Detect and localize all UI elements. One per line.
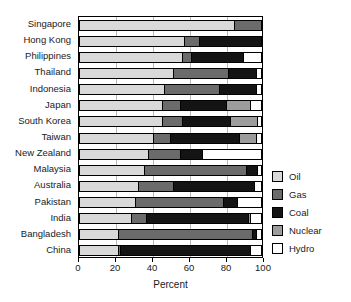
bar-row: [79, 229, 262, 240]
bar-segment-oil: [79, 165, 145, 176]
bar-segment-nuclear: [240, 133, 256, 144]
y-axis-label-australia: Australia: [34, 180, 71, 190]
bar-row: [79, 245, 262, 256]
legend-label-coal: Coal: [289, 207, 309, 218]
bar-row: [79, 84, 262, 95]
bar-segment-oil: [79, 133, 154, 144]
bar-segment-oil: [79, 197, 136, 208]
legend-swatch-nuclear-icon: [272, 225, 283, 236]
y-axis-label-philippines: Philippines: [25, 51, 71, 61]
bar-segment-hydro: [257, 229, 263, 240]
legend-label-oil: Oil: [289, 171, 301, 182]
y-axis-category-labels: SingaporeHong KongPhilippinesThailandInd…: [0, 16, 75, 258]
bar-segment-oil: [79, 213, 132, 224]
legend-item-oil[interactable]: Oil: [272, 168, 348, 184]
y-axis-label-bangladesh: Bangladesh: [21, 229, 71, 239]
bar-segment-gas: [163, 116, 183, 127]
legend-label-nuclear: Nuclear: [289, 225, 322, 236]
bar-segment-oil: [79, 245, 119, 256]
bar-segment-hydro: [258, 116, 262, 127]
y-axis-label-south-korea: South Korea: [18, 116, 71, 126]
legend-item-hydro[interactable]: Hydro: [272, 240, 348, 256]
y-axis-label-taiwan: Taiwan: [41, 132, 71, 142]
bar-segment-coal: [229, 68, 256, 79]
bar-row: [79, 52, 262, 63]
bar-row: [79, 100, 262, 111]
y-axis-label-pakistan: Pakistan: [35, 197, 71, 207]
x-tick-label-80: 80: [221, 262, 232, 273]
bar-segment-nuclear: [227, 100, 251, 111]
bar-segment-coal: [200, 36, 262, 47]
bar-segment-hydro: [203, 149, 262, 160]
legend-item-gas[interactable]: Gas: [272, 186, 348, 202]
bar-row: [79, 197, 262, 208]
bar-segment-gas: [136, 197, 224, 208]
bar-segment-coal: [192, 52, 243, 63]
y-axis-label-singapore: Singapore: [28, 19, 71, 29]
stacked-bar-chart: SingaporeHong KongPhilippinesThailandInd…: [0, 0, 351, 302]
bar-segment-oil: [79, 181, 139, 192]
bar-row: [79, 68, 262, 79]
legend-item-nuclear[interactable]: Nuclear: [272, 222, 348, 238]
bar-segment-coal: [174, 181, 255, 192]
bar-row: [79, 213, 262, 224]
y-axis-label-india: India: [50, 213, 71, 223]
x-tick-label-0: 0: [75, 262, 80, 273]
bar-segment-hydro: [257, 84, 263, 95]
bar-segment-gas: [119, 229, 253, 240]
bar-segment-gas: [145, 165, 247, 176]
bar-segment-coal: [181, 100, 227, 111]
bar-segment-oil: [79, 100, 163, 111]
x-axis-title: Percent: [78, 279, 263, 290]
bar-segment-coal: [147, 213, 249, 224]
bar-segment-coal: [224, 197, 239, 208]
bar-segment-coal: [121, 245, 251, 256]
x-tick-label-40: 40: [147, 262, 158, 273]
bar-row: [79, 116, 262, 127]
bar-segment-oil: [79, 20, 235, 31]
bar-segment-hydro: [238, 197, 262, 208]
bar-segment-gas: [149, 149, 182, 160]
legend-swatch-gas-icon: [272, 189, 283, 200]
bar-segment-oil: [79, 68, 174, 79]
legend-swatch-coal-icon: [272, 207, 283, 218]
y-axis-label-hong-kong: Hong Kong: [23, 35, 71, 45]
bar-segment-oil: [79, 36, 185, 47]
bar-segment-hydro: [251, 245, 262, 256]
bar-segment-gas: [163, 100, 181, 111]
bar-segment-oil: [79, 52, 183, 63]
bar-row: [79, 36, 262, 47]
y-axis-label-malaysia: Malaysia: [34, 164, 72, 174]
bar-segment-coal: [183, 116, 231, 127]
bar-segment-gas: [132, 213, 147, 224]
legend: OilGasCoalNuclearHydro: [272, 168, 348, 258]
bar-segment-gas: [165, 84, 220, 95]
legend-item-coal[interactable]: Coal: [272, 204, 348, 220]
y-axis-label-thailand: Thailand: [35, 67, 71, 77]
bar-segment-coal: [171, 133, 241, 144]
y-axis-label-japan: Japan: [45, 100, 71, 110]
bar-segment-oil: [79, 116, 163, 127]
bar-row: [79, 165, 262, 176]
bar-segment-gas: [154, 133, 170, 144]
bar-segment-hydro: [244, 52, 262, 63]
bar-segment-coal: [181, 149, 203, 160]
bar-segment-hydro: [257, 133, 263, 144]
bar-row: [79, 133, 262, 144]
bar-segment-oil: [79, 149, 149, 160]
bar-segment-hydro: [251, 100, 262, 111]
bar-row: [79, 149, 262, 160]
bar-row: [79, 181, 262, 192]
bar-segment-gas: [139, 181, 174, 192]
bar-segment-gas: [183, 52, 192, 63]
bar-segment-hydro: [257, 68, 263, 79]
legend-label-hydro: Hydro: [289, 243, 314, 254]
legend-label-gas: Gas: [289, 189, 306, 200]
x-axis-tick-labels: 020406080100: [0, 262, 351, 276]
bar-series-container: [79, 17, 262, 257]
bar-segment-coal: [220, 84, 257, 95]
x-tick-label-20: 20: [110, 262, 121, 273]
legend-swatch-hydro-icon: [272, 243, 283, 254]
bar-segment-coal: [247, 165, 258, 176]
bar-segment-gas: [235, 20, 262, 31]
